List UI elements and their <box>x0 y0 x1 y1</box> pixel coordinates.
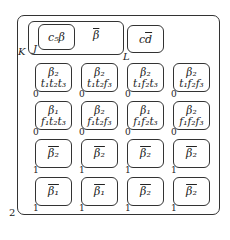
grid-cell: β₁f₁t₂t₃ <box>35 101 72 130</box>
cell-top-text: β₁ <box>48 105 58 116</box>
grid-cell: β₂ <box>127 139 164 168</box>
cell-top-text: β₂ <box>140 148 151 159</box>
cell-c5-beta: c₅β <box>38 24 75 50</box>
grid-cell: β₁f₁f₂t₃ <box>127 101 164 130</box>
cell-tag: 0 <box>79 90 85 99</box>
grid-cell: β₂ <box>81 139 118 168</box>
cell-bottom-text: t₁t₂t₃ <box>41 78 66 89</box>
cell-tag: 1 <box>125 166 131 175</box>
cell-top-text: β₂ <box>140 67 150 78</box>
cell-tag: 0 <box>33 128 39 137</box>
cell-top-text: β₁ <box>94 186 105 197</box>
cell-top-text: β₂ <box>186 148 197 159</box>
cell-tag: 0 <box>79 128 85 137</box>
cell-tag: 1 <box>33 166 39 175</box>
grid-cell: β₁ <box>81 177 118 206</box>
cell-top-text: β₂ <box>186 186 197 197</box>
cell-top-text: β₂ <box>94 105 104 116</box>
label-2: 2 <box>9 208 15 217</box>
beta-bar-label: β <box>93 29 99 42</box>
cell-tag: 1 <box>171 166 177 175</box>
cd-d-text: d <box>145 33 152 46</box>
grid-cell: β₂f₁t₂f₃ <box>81 101 118 130</box>
cell-tag: 0 <box>125 90 131 99</box>
beta-bar-text: β <box>93 29 99 42</box>
cell-tag: 0 <box>171 128 177 137</box>
cell-c5-beta-label: c₅β <box>48 31 65 44</box>
cell-bottom-text: f₁f₂f₃ <box>179 116 203 127</box>
grid-cell: β₂t₁f₂t₃ <box>127 63 164 92</box>
grid-cell: β₂t₁t₂t₃ <box>35 63 72 92</box>
grid-cell: β₂t₁t₂f₃ <box>81 63 118 92</box>
cell-top-text: β₁ <box>140 105 150 116</box>
cell-top-text: β₁ <box>48 186 59 197</box>
grid-cell: β₂ <box>173 139 210 168</box>
cell-top-text: β₂ <box>48 67 58 78</box>
cell-top-text: β₂ <box>186 67 196 78</box>
cell-top-text: β₂ <box>48 148 59 159</box>
cell-top-text: β₂ <box>94 67 104 78</box>
cell-tag: 1 <box>33 204 39 213</box>
grid-cell: β₂f₁f₂f₃ <box>173 101 210 130</box>
cell-top-text: β₂ <box>140 186 151 197</box>
label-j: J <box>33 44 37 54</box>
grid-cell: β₂t₁f₂f₃ <box>173 63 210 92</box>
cell-tag: 1 <box>171 204 177 213</box>
label-l: L <box>123 52 130 62</box>
cell-bottom-text: t₁f₂f₃ <box>179 78 204 89</box>
cell-bottom-text: t₁f₂t₃ <box>133 78 158 89</box>
cell-top-text: β₂ <box>94 148 105 159</box>
cell-tag: 0 <box>171 90 177 99</box>
cell-cd-bar: cd <box>127 25 164 53</box>
cell-bottom-text: f₁t₂f₃ <box>87 116 112 127</box>
grid-cell: β₂ <box>173 177 210 206</box>
cell-bottom-text: f₁t₂t₃ <box>41 116 66 127</box>
cell-tag: 1 <box>79 166 85 175</box>
cell-bottom-text: f₁f₂t₃ <box>133 116 158 127</box>
grid-cell: β₂ <box>35 139 72 168</box>
cell-tag: 0 <box>125 128 131 137</box>
cell-bottom-text: t₁t₂f₃ <box>87 78 112 89</box>
cell-top-text: β₂ <box>186 105 196 116</box>
cell-tag: 1 <box>125 204 131 213</box>
cell-tag: 0 <box>33 90 39 99</box>
cell-tag: 1 <box>79 204 85 213</box>
label-k: K <box>18 47 25 57</box>
grid-cell: β₂ <box>127 177 164 206</box>
grid-cell: β₁ <box>35 177 72 206</box>
